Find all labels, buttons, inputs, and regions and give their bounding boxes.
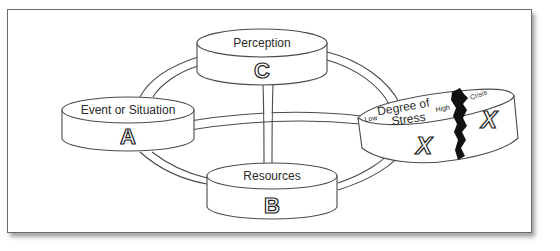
letter-a: A (120, 124, 136, 149)
resources-label: Resources (243, 169, 300, 183)
letter-b: B (264, 193, 280, 218)
resources-disk: Resources B (207, 163, 337, 219)
letter-x: X (414, 132, 434, 159)
event-disk: Event or Situation A (62, 97, 194, 151)
event-label: Event or Situation (81, 103, 176, 117)
perception-disk: Perception C (197, 29, 327, 85)
center-cross (190, 84, 361, 168)
abcx-diagram: Perception C Resources B Event or Situat… (0, 0, 560, 251)
letter-c: C (254, 58, 270, 83)
letter-x-crisis: X (479, 106, 499, 133)
perception-label: Perception (233, 36, 290, 50)
stress-disk: Low Degree of Stress High Crisis X X (358, 88, 518, 163)
